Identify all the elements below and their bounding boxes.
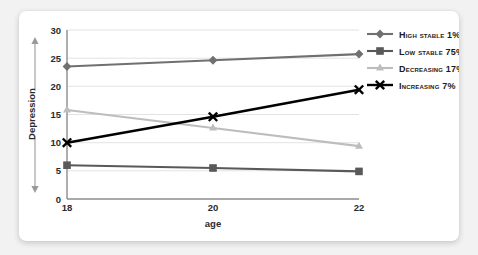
chart-legend: High stable 1% Low stable 75% Decreasing… <box>367 30 459 91</box>
x-tick-label-20: 20 <box>208 202 219 213</box>
square-marker-icon <box>376 47 384 55</box>
y-tick-label-10: 10 <box>50 137 61 148</box>
x-tick-label-22: 22 <box>354 202 365 213</box>
legend-item-low-stable[interactable]: Low stable 75% <box>367 47 459 57</box>
chart-svg: 30 25 20 15 10 5 0 18 20 22 age Depressi… <box>19 11 459 241</box>
y-tick-label-5: 5 <box>56 165 62 176</box>
y-tick-label-0: 0 <box>56 194 61 205</box>
legend-item-high-stable[interactable]: High stable 1% <box>367 30 459 40</box>
legend-label-low-stable: Low stable 75% <box>399 47 459 57</box>
legend-label-increasing: Increasing 7% <box>399 81 456 91</box>
y-tick-label-30: 30 <box>50 25 61 36</box>
gridlines <box>67 30 359 171</box>
y-tick-label-20: 20 <box>50 81 61 92</box>
legend-item-increasing[interactable]: Increasing 7% <box>367 81 456 91</box>
series-high-stable <box>63 50 364 71</box>
series-low-stable <box>63 161 363 175</box>
legend-label-decreasing: Decreasing 17% <box>399 64 459 74</box>
chart-card: 30 25 20 15 10 5 0 18 20 22 age Depressi… <box>19 11 459 241</box>
y-tick-label-15: 15 <box>50 109 61 120</box>
x-tick-label-18: 18 <box>62 202 73 213</box>
legend-item-decreasing[interactable]: Decreasing 17% <box>367 64 459 74</box>
y-axis-title: Depression <box>26 88 37 140</box>
x-axis-title: age <box>205 218 221 229</box>
diamond-marker-icon <box>376 30 385 39</box>
legend-label-high-stable: High stable 1% <box>399 30 459 40</box>
chart-figure: 30 25 20 15 10 5 0 18 20 22 age Depressi… <box>19 11 459 241</box>
series-increasing <box>63 86 363 147</box>
y-tick-label-25: 25 <box>50 53 61 64</box>
